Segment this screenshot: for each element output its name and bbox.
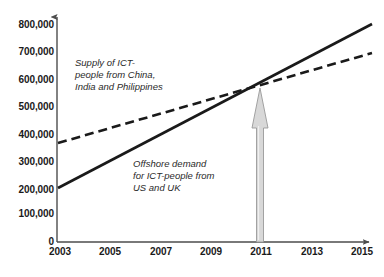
chart-container: 800,000 700,000 600,000 500,000 400,000 … (0, 0, 384, 277)
y-tick-label: 200,000 (2, 184, 54, 195)
y-tick-label: 800,000 (2, 19, 54, 30)
annotation-demand-label: Offshore demand for ICT-people from US a… (133, 158, 263, 195)
y-tick-label: 700,000 (2, 46, 54, 57)
x-tick-label: 2009 (189, 246, 233, 257)
x-tick-label: 2013 (290, 246, 334, 257)
annotation-supply-label: Supply of ICT- people from China, India … (75, 57, 195, 94)
y-tick-label: 100,000 (2, 208, 54, 219)
chart-plot-area (0, 0, 384, 277)
y-tick-label: 500,000 (2, 101, 54, 112)
x-tick-label: 2005 (88, 246, 132, 257)
y-axis-tick-labels: 800,000 700,000 600,000 500,000 400,000 … (0, 0, 54, 277)
y-tick-label: 300,000 (2, 156, 54, 167)
y-tick-label: 400,000 (2, 129, 54, 140)
x-tick-label: 2015 (340, 246, 384, 257)
x-tick-label: 2007 (139, 246, 183, 257)
x-tick-label: 2003 (38, 246, 82, 257)
x-tick-label: 2011 (239, 246, 283, 257)
y-tick-label: 600,000 (2, 74, 54, 85)
